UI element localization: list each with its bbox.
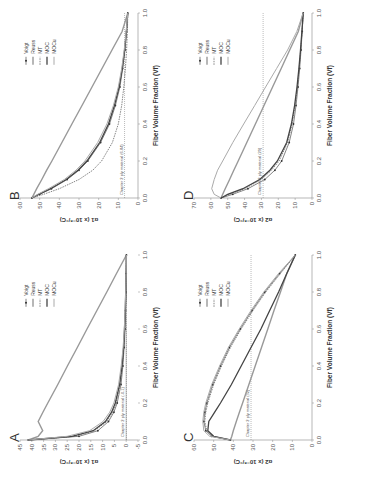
x-tick-label: 0.8 bbox=[316, 287, 322, 296]
y-tick-label: 10 bbox=[100, 443, 106, 450]
chart-panel-d: D0102030405060700.00.20.40.60.81.0Fiber … bbox=[180, 2, 345, 232]
y-tick-label: 70 bbox=[191, 201, 197, 208]
data-point bbox=[288, 142, 290, 144]
x-tick-label: 0.4 bbox=[316, 119, 322, 128]
y-tick-label: 40 bbox=[242, 201, 248, 208]
legend-label: MT bbox=[37, 289, 43, 296]
y-tick-label: 30 bbox=[76, 201, 82, 208]
y-tick-label: 60 bbox=[17, 201, 23, 208]
y-tick-label: 20 bbox=[96, 201, 102, 208]
legend-label: Reuss bbox=[204, 39, 210, 54]
chart-panel-c: C01020304050600.00.20.40.60.81.0Fiber Vo… bbox=[180, 244, 345, 474]
y-tick-label: 30 bbox=[258, 201, 264, 208]
y-tick-label: 50 bbox=[211, 443, 217, 450]
reference-line-label: Chapter 2 ply material (29) bbox=[257, 147, 262, 195]
x-tick-label: 0.6 bbox=[142, 82, 148, 91]
reference-line-label: Chapter 2 ply material (32) bbox=[245, 389, 250, 437]
reference-line-label: Chapter 2 ply material (6.84) bbox=[119, 144, 124, 195]
x-tick-label: 0.4 bbox=[142, 119, 148, 128]
legend-label: MOC bbox=[44, 284, 50, 296]
legend-label: MOC bbox=[218, 42, 224, 54]
y-tick-label: 10 bbox=[292, 201, 298, 208]
chart-svg: A-50510152025303540450.00.20.40.60.81.0F… bbox=[6, 244, 171, 474]
data-point bbox=[274, 169, 276, 171]
series-line-mt bbox=[205, 255, 295, 440]
x-tick-label: 0.4 bbox=[316, 361, 322, 370]
legend-label: Reuss bbox=[30, 281, 36, 296]
x-tick-label: 0.8 bbox=[316, 45, 322, 54]
data-point bbox=[264, 179, 266, 181]
y-tick-label: 20 bbox=[275, 201, 281, 208]
x-tick-label: 0.6 bbox=[316, 82, 322, 91]
data-point bbox=[247, 188, 249, 190]
data-point bbox=[113, 411, 115, 413]
y-tick-label: 20 bbox=[76, 443, 82, 450]
y-axis-label: α1 (x 10⁻⁶/°C) bbox=[60, 217, 99, 223]
x-tick-label: 0.8 bbox=[142, 45, 148, 54]
y-axis-label: α1 (x 10⁻⁶/°C) bbox=[60, 459, 99, 465]
y-tick-label: 45 bbox=[17, 443, 23, 450]
legend-label: Voigt bbox=[197, 284, 203, 296]
y-tick-label: 60 bbox=[208, 201, 214, 208]
x-axis-label: Fiber Volume Fraction (Vf) bbox=[152, 307, 160, 388]
chart-svg: B01020304050600.00.20.40.60.81.0Fiber Vo… bbox=[6, 2, 171, 232]
x-tick-label: 0.2 bbox=[316, 156, 322, 165]
x-tick-label: 0.0 bbox=[142, 193, 148, 202]
y-tick-label: 50 bbox=[225, 201, 231, 208]
data-point bbox=[293, 123, 295, 125]
legend-label: MOCu bbox=[225, 39, 231, 54]
figure-caption bbox=[352, 10, 364, 472]
y-tick-label: 40 bbox=[29, 443, 35, 450]
data-point bbox=[232, 193, 234, 195]
y-tick-label: 10 bbox=[115, 201, 121, 208]
y-tick-label: 60 bbox=[191, 443, 197, 450]
legend-label: Reuss bbox=[30, 39, 36, 54]
x-tick-label: 0.4 bbox=[142, 361, 148, 370]
y-tick-label: 15 bbox=[88, 443, 94, 450]
chart-svg: D0102030405060700.00.20.40.60.81.0Fiber … bbox=[180, 2, 345, 232]
legend-label: Reuss bbox=[204, 281, 210, 296]
legend-label: MOCu bbox=[51, 281, 57, 296]
data-point bbox=[281, 160, 283, 162]
y-tick-label: 5 bbox=[111, 443, 117, 447]
legend-label: MOC bbox=[44, 42, 50, 54]
x-tick-label: 1.0 bbox=[316, 250, 322, 259]
x-tick-label: 0.8 bbox=[142, 287, 148, 296]
x-tick-label: 1.0 bbox=[142, 250, 148, 259]
data-point bbox=[78, 435, 80, 437]
x-tick-label: 0.2 bbox=[142, 156, 148, 165]
y-tick-label: 40 bbox=[230, 443, 236, 450]
y-tick-label: 0 bbox=[135, 201, 141, 205]
series-line-reuss bbox=[230, 255, 295, 440]
x-tick-label: 0.2 bbox=[316, 398, 322, 407]
series-line-moc bbox=[208, 255, 295, 440]
y-tick-label: 0 bbox=[309, 443, 315, 447]
chart-panel-a: A-50510152025303540450.00.20.40.60.81.0F… bbox=[6, 244, 171, 474]
x-tick-label: 0.2 bbox=[142, 398, 148, 407]
legend-label: Voigt bbox=[23, 284, 29, 296]
y-tick-label: 20 bbox=[270, 443, 276, 450]
y-tick-label: 30 bbox=[250, 443, 256, 450]
legend-label: MOC bbox=[218, 284, 224, 296]
x-axis-label: Fiber Volume Fraction (Vf) bbox=[326, 65, 334, 146]
y-tick-label: 0 bbox=[123, 443, 129, 447]
legend-label: MT bbox=[211, 47, 217, 54]
y-tick-label: -5 bbox=[135, 443, 141, 449]
x-tick-label: 1.0 bbox=[316, 8, 322, 17]
x-tick-label: 0.0 bbox=[316, 435, 322, 444]
legend-label: MT bbox=[211, 289, 217, 296]
y-tick-label: 0 bbox=[309, 201, 315, 205]
x-tick-label: 1.0 bbox=[142, 8, 148, 17]
legend-label: MT bbox=[37, 47, 43, 54]
x-axis-label: Fiber Volume Fraction (Vf) bbox=[326, 307, 334, 388]
reference-line-label: Chapter 2 ply material (-0.1) bbox=[120, 387, 125, 437]
rotated-figure-page: A-50510152025303540450.00.20.40.60.81.0F… bbox=[0, 0, 366, 482]
x-tick-label: 0.0 bbox=[142, 435, 148, 444]
y-tick-label: 50 bbox=[37, 201, 43, 208]
x-axis-label: Fiber Volume Fraction (Vf) bbox=[152, 65, 160, 146]
x-tick-label: 0.0 bbox=[316, 193, 322, 202]
data-point bbox=[108, 421, 110, 423]
chart-svg: C01020304050600.00.20.40.60.81.0Fiber Vo… bbox=[180, 244, 345, 474]
y-axis-label: α2 (x 10⁻⁶/°C) bbox=[234, 217, 273, 223]
y-tick-label: 35 bbox=[41, 443, 47, 450]
